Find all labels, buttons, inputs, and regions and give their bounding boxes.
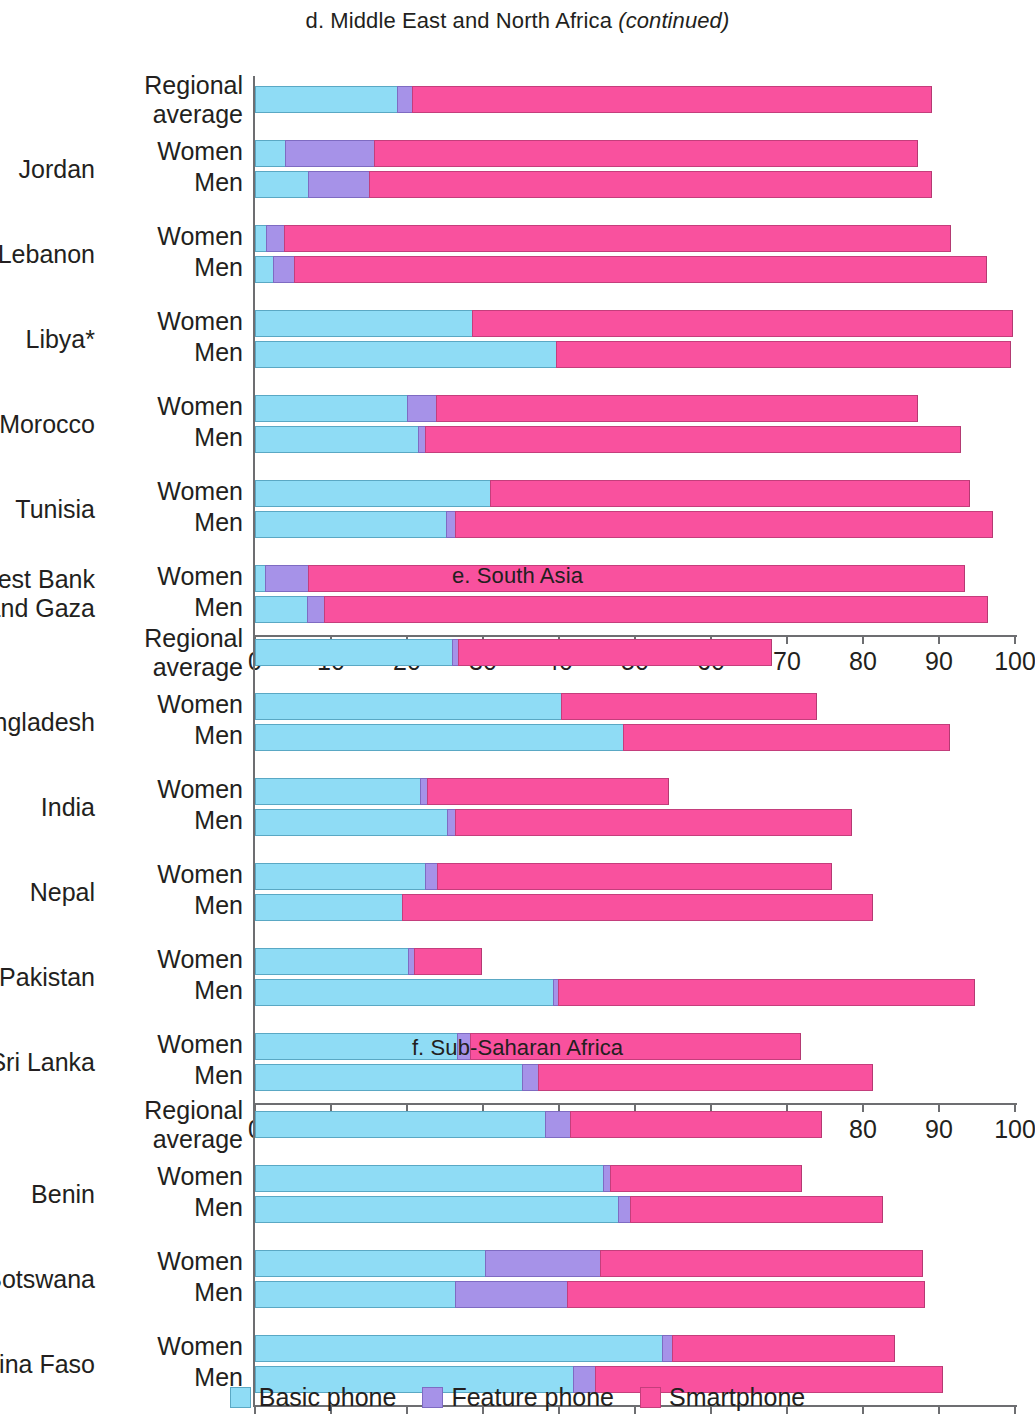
stacked-bar <box>255 1196 883 1223</box>
row-sex-label: Women <box>103 393 243 420</box>
row-sex-label: Women <box>103 861 243 888</box>
bar-segment-basic <box>255 140 285 167</box>
bar-segment-smart <box>570 1111 822 1138</box>
row-sex-label: Women <box>103 308 243 335</box>
bar-segment-feature <box>420 778 427 805</box>
stacked-bar <box>255 639 772 666</box>
row-sex-label: Men <box>103 424 243 451</box>
row-group-label: Lebanon <box>0 240 95 269</box>
panel-d-plot: 0102030405060708090100WomenMenWomenMenWo… <box>0 34 1035 534</box>
stacked-bar <box>255 948 482 975</box>
row-group-label: Bangladesh <box>0 708 95 737</box>
bar-segment-smart <box>556 341 1011 368</box>
stacked-bar <box>255 171 932 198</box>
bar-segment-smart <box>600 1250 923 1277</box>
row-sex-label: Men <box>103 1194 243 1221</box>
stacked-bar <box>255 863 832 890</box>
bar-segment-feature <box>603 1165 610 1192</box>
legend-swatch-basic-phone <box>230 1387 251 1408</box>
panel-sub-saharan-africa: f. Sub-Saharan Africa 010203040506070809… <box>0 1035 1035 1391</box>
bar-segment-basic <box>255 979 553 1006</box>
bar-segment-basic <box>255 724 623 751</box>
bar-segment-feature <box>662 1335 672 1362</box>
bar-segment-feature <box>455 1281 567 1308</box>
bar-segment-basic <box>255 639 452 666</box>
stacked-bar <box>255 809 852 836</box>
stacked-bar <box>255 86 932 113</box>
stacked-bar <box>255 693 817 720</box>
bar-segment-smart <box>455 809 852 836</box>
row-sex-label: Women <box>103 776 243 803</box>
row-sex-label: Women <box>103 691 243 718</box>
bar-segment-feature <box>485 1250 600 1277</box>
stacked-bar <box>255 341 1011 368</box>
bar-segment-smart <box>490 480 970 507</box>
bar-segment-feature <box>273 256 294 283</box>
row-sex-label: Women <box>103 946 243 973</box>
bar-segment-basic <box>255 225 266 252</box>
stacked-bar <box>255 225 951 252</box>
bar-segment-feature <box>308 171 369 198</box>
bar-segment-smart <box>427 778 669 805</box>
bar-segment-basic <box>255 341 556 368</box>
row-group-label: Libya* <box>0 325 95 354</box>
row-group-label: Nepal <box>0 878 95 907</box>
bar-segment-smart <box>374 140 917 167</box>
bar-segment-basic <box>255 171 308 198</box>
bar-segment-smart <box>561 693 816 720</box>
row-group-label: Burkina Faso <box>0 1350 95 1379</box>
bar-segment-smart <box>436 395 918 422</box>
panel-d-title: d. Middle East and North Africa (continu… <box>0 8 1035 34</box>
row-sex-label: Men <box>103 509 243 536</box>
bar-segment-basic <box>255 480 490 507</box>
bar-segment-basic <box>255 809 447 836</box>
bar-segment-smart <box>294 256 987 283</box>
bar-segment-feature <box>618 1196 629 1223</box>
stacked-bar <box>255 778 669 805</box>
bar-segment-smart <box>623 724 950 751</box>
stacked-bar <box>255 395 918 422</box>
row-group-label: Regional average <box>0 624 243 682</box>
row-group-label: Pakistan <box>0 963 95 992</box>
panel-south-asia: e. South Asia 0102030405060708090100Wome… <box>0 563 1035 1029</box>
bar-segment-smart <box>455 511 993 538</box>
bar-segment-smart <box>672 1335 895 1362</box>
stacked-bar <box>255 140 918 167</box>
bar-segment-smart <box>458 639 772 666</box>
row-sex-label: Women <box>103 138 243 165</box>
panel-e-title: e. South Asia <box>0 563 1035 589</box>
row-sex-label: Women <box>103 1333 243 1360</box>
bar-segment-basic <box>255 778 420 805</box>
stacked-bar <box>255 979 975 1006</box>
bar-segment-basic <box>255 1335 662 1362</box>
row-sex-label: Men <box>103 339 243 366</box>
row-sex-label: Men <box>103 254 243 281</box>
bar-segment-feature <box>407 395 436 422</box>
bar-segment-basic <box>255 948 408 975</box>
bar-segment-smart <box>412 86 932 113</box>
row-sex-label: Men <box>103 807 243 834</box>
bar-segment-smart <box>472 310 1012 337</box>
panel-e-plot: 0102030405060708090100WomenMenWomenMenWo… <box>0 589 1035 1029</box>
bar-segment-feature <box>425 863 437 890</box>
row-sex-label: Men <box>103 722 243 749</box>
bar-segment-feature <box>266 225 284 252</box>
row-group-label: Jordan <box>0 155 95 184</box>
stacked-bar <box>255 256 987 283</box>
panel-middle-east-north-africa: d. Middle East and North Africa (continu… <box>0 8 1035 534</box>
row-group-label: Regional average <box>0 1096 243 1154</box>
row-group-label: Regional average <box>0 71 243 129</box>
bar-segment-basic <box>255 310 472 337</box>
bar-segment-basic <box>255 894 402 921</box>
bar-segment-feature <box>418 426 426 453</box>
legend-item-smartphone: Smartphone <box>640 1383 805 1412</box>
stacked-bar <box>255 894 873 921</box>
row-group-label: Morocco <box>0 410 95 439</box>
bar-segment-feature <box>447 809 455 836</box>
bar-segment-smart <box>567 1281 925 1308</box>
bar-segment-basic <box>255 256 273 283</box>
bar-segment-feature <box>285 140 375 167</box>
row-sex-label: Women <box>103 1248 243 1275</box>
bar-segment-smart <box>437 863 831 890</box>
bar-segment-smart <box>369 171 932 198</box>
